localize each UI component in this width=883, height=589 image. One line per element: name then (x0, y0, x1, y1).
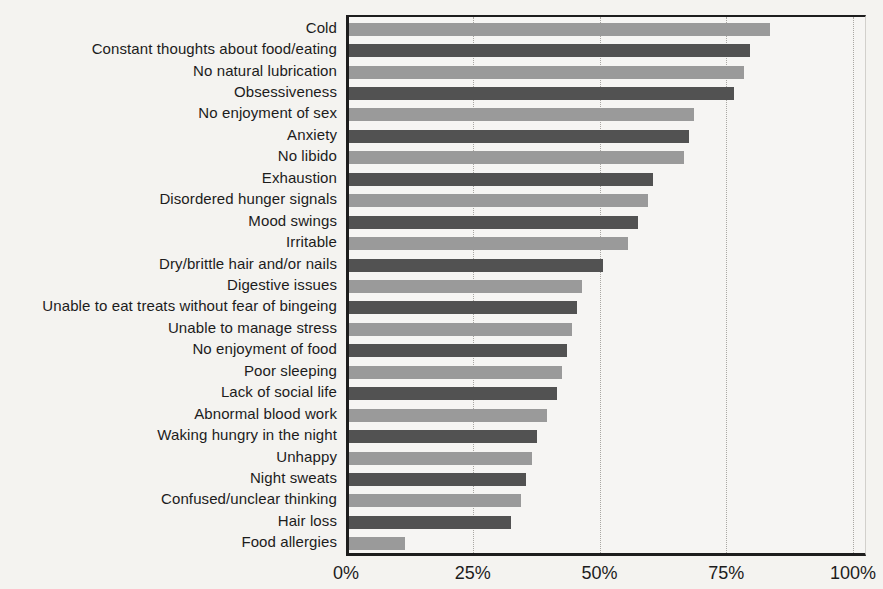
bar (349, 280, 582, 293)
bar (349, 130, 689, 143)
category-label: Exhaustion (0, 169, 337, 186)
bar (349, 66, 744, 79)
category-label: Mood swings (0, 212, 337, 229)
bar (349, 151, 684, 164)
category-label: Unable to eat treats without fear of bin… (0, 297, 337, 314)
category-label: Disordered hunger signals (0, 190, 337, 207)
category-label: Confused/unclear thinking (0, 490, 337, 507)
category-label: Hair loss (0, 512, 337, 529)
category-label: Anxiety (0, 126, 337, 143)
bar (349, 473, 526, 486)
category-label: No enjoyment of food (0, 340, 337, 357)
category-label: No natural lubrication (0, 62, 337, 79)
category-label: Unable to manage stress (0, 319, 337, 336)
bar (349, 44, 750, 57)
bar (349, 173, 653, 186)
category-label: Irritable (0, 233, 337, 250)
bar (349, 516, 511, 529)
x-tick-label: 100% (830, 563, 876, 584)
category-label: No enjoyment of sex (0, 104, 337, 121)
bar (349, 87, 734, 100)
category-label: Dry/brittle hair and/or nails (0, 255, 337, 272)
category-label: Night sweats (0, 469, 337, 486)
x-tick-label: 0% (333, 563, 359, 584)
bar (349, 494, 521, 507)
plot-area (346, 15, 866, 556)
bar (349, 194, 648, 207)
x-tick-label: 75% (708, 563, 744, 584)
bar (349, 430, 537, 443)
bar (349, 23, 770, 36)
category-label: Obsessiveness (0, 83, 337, 100)
bar (349, 537, 405, 550)
category-label: No libido (0, 147, 337, 164)
bar (349, 452, 532, 465)
category-label: Constant thoughts about food/eating (0, 40, 337, 57)
bar (349, 387, 557, 400)
category-label: Unhappy (0, 448, 337, 465)
bar (349, 216, 638, 229)
category-label: Food allergies (0, 533, 337, 550)
bar (349, 301, 577, 314)
bar (349, 344, 567, 357)
bar (349, 323, 572, 336)
bar (349, 366, 562, 379)
category-label: Abnormal blood work (0, 405, 337, 422)
bar-chart-figure: ColdConstant thoughts about food/eatingN… (0, 0, 883, 589)
bar (349, 259, 603, 272)
gridline-100 (853, 17, 854, 553)
category-label: Cold (0, 19, 337, 36)
category-label: Poor sleeping (0, 362, 337, 379)
x-tick-label: 25% (455, 563, 491, 584)
bar (349, 108, 694, 121)
x-tick-label: 50% (581, 563, 617, 584)
category-label: Waking hungry in the night (0, 426, 337, 443)
category-label: Lack of social life (0, 383, 337, 400)
bar (349, 409, 547, 422)
category-label: Digestive issues (0, 276, 337, 293)
bar (349, 237, 628, 250)
